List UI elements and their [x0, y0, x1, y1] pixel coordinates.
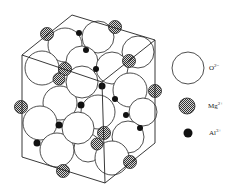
- unit-cell: [15, 15, 162, 183]
- legend-label-magnesium: Mg2+: [208, 101, 223, 110]
- legend-label-oxygen: O2−: [209, 63, 219, 72]
- oxygen-legend-symbol: [172, 52, 204, 84]
- legend: [172, 52, 204, 138]
- al-legend-symbol: [184, 129, 193, 138]
- spinel-structure-diagram: [0, 0, 238, 195]
- legend-label-aluminum: Al3+: [209, 128, 221, 137]
- mg-legend-symbol: [179, 98, 195, 114]
